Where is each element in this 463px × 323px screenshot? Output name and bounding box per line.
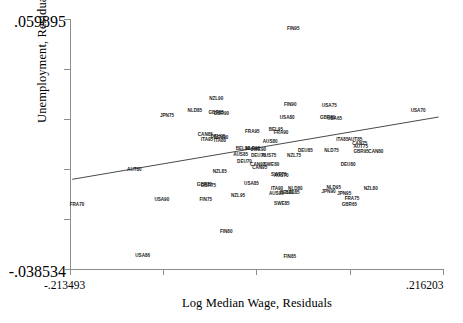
data-point-label: NLD85 xyxy=(188,108,203,113)
x-tick-label-max: .216203 xyxy=(406,279,443,291)
data-point-label: FRA70 xyxy=(70,201,85,206)
data-point-label: DEU85 xyxy=(298,147,313,152)
x-axis-line xyxy=(70,269,444,270)
data-point-label: AUT80 xyxy=(127,167,142,172)
data-point-label: NZL75 xyxy=(287,153,301,158)
data-point-label: ITA85 xyxy=(336,137,348,142)
data-point-label: GBR65 xyxy=(342,202,357,207)
data-point-label: NZL95 xyxy=(231,192,245,197)
y-tick-label-max: .059895 xyxy=(0,13,66,31)
data-point-label: GBR95 xyxy=(353,148,368,153)
data-point-label: DEU80 xyxy=(341,161,356,166)
data-point-label: FIN75 xyxy=(200,196,213,201)
data-point-label: USA85 xyxy=(244,181,259,186)
plot-area: FIN95NZL90FIN90USA75USA70NLD85GBR85GBR90… xyxy=(70,19,444,269)
fitted-regression-line xyxy=(70,19,444,269)
data-point-label: SWE85 xyxy=(274,200,290,205)
data-point-label: USA70 xyxy=(411,108,426,113)
data-point-label: USA90 xyxy=(154,197,169,202)
x-axis-tick xyxy=(350,269,351,275)
x-axis-tick xyxy=(443,269,444,275)
data-point-label: FIN90 xyxy=(284,101,297,106)
data-point-label: NZL90 xyxy=(209,95,223,100)
data-point-label: NLD75 xyxy=(324,148,339,153)
x-axis-tick xyxy=(163,269,164,275)
x-axis-tick xyxy=(70,269,71,275)
data-point-label: JPN90 xyxy=(321,189,335,194)
data-point-label: AUS80 xyxy=(263,139,278,144)
data-point-label: JPN75 xyxy=(160,112,174,117)
data-point-label: USA65 xyxy=(327,116,342,121)
data-point-label: GBR90 xyxy=(214,110,229,115)
data-point-label: NZL85 xyxy=(213,169,227,174)
data-point-label: ITA95 xyxy=(201,137,213,142)
data-point-label: GBR75 xyxy=(201,183,216,188)
data-point-label: USA75 xyxy=(322,103,337,108)
data-point-label: FRA75 xyxy=(345,195,360,200)
data-point-label: USA86 xyxy=(135,252,150,257)
data-point-label: FIN80 xyxy=(220,228,233,233)
data-point-label: FRA90 xyxy=(274,129,289,134)
data-point-label: ITA80 xyxy=(214,137,226,142)
data-point-label: AUS70 xyxy=(274,172,289,177)
data-point-label: FIN85 xyxy=(284,254,297,259)
data-point-label: BEL85 xyxy=(285,190,299,195)
data-point-label: AUS85 xyxy=(233,151,248,156)
data-point-label: FRA95 xyxy=(245,129,260,134)
data-point-label: AUS75 xyxy=(261,153,276,158)
x-tick-label-min: -.213493 xyxy=(44,279,85,291)
data-point-label: CAN95 xyxy=(252,164,267,169)
data-point-label: CAN80 xyxy=(368,149,383,154)
data-point-label: FIN95 xyxy=(287,25,300,30)
x-axis-title: Log Median Wage, Residuals xyxy=(70,296,444,311)
data-point-label: USA80 xyxy=(280,114,295,119)
data-point-label: SWE90 xyxy=(251,146,267,151)
data-point-label: NZL80 xyxy=(364,186,378,191)
scatter-plot-figure: Unemployment, Residuals .059895 -.038534… xyxy=(0,0,463,323)
x-axis-tick xyxy=(256,269,257,275)
